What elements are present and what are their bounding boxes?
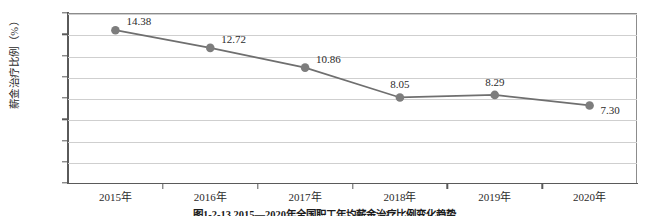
data-point-label: 8.29	[485, 76, 504, 88]
x-tick-mark	[352, 183, 353, 189]
data-point-marker	[490, 91, 499, 100]
data-point-marker	[206, 44, 215, 53]
data-point-marker	[301, 63, 310, 72]
series-line	[115, 30, 589, 105]
x-tick-mark	[257, 183, 258, 189]
x-tick-label: 2017年	[260, 188, 350, 204]
chart-figure: 薪金治疗比例（%） 16.0014.0012.0010.008.006.004.…	[0, 0, 649, 216]
data-point-label: 8.05	[390, 78, 409, 90]
x-tick-mark	[447, 183, 448, 189]
series-line-chart	[68, 13, 637, 183]
data-point-label: 7.30	[601, 104, 620, 116]
data-point-label: 12.72	[221, 33, 246, 45]
x-tick-mark	[162, 183, 163, 189]
x-tick-label: 2020年	[545, 188, 635, 204]
x-tick-mark	[541, 183, 542, 189]
figure-caption: 图1-2-13 2015—2020年全国职工年均薪金治疗比例变化趋势	[0, 206, 649, 216]
data-point-label: 10.86	[316, 53, 341, 65]
x-tick-label: 2019年	[450, 188, 540, 204]
data-point-label: 14.38	[126, 15, 151, 27]
data-point-marker	[396, 93, 405, 102]
data-point-marker	[585, 101, 594, 110]
x-tick-label: 2016年	[165, 188, 255, 204]
data-point-marker	[111, 26, 120, 35]
x-tick-label: 2015年	[70, 188, 160, 204]
y-axis-title: 薪金治疗比例（%）	[6, 4, 21, 122]
x-tick-label: 2018年	[355, 188, 445, 204]
